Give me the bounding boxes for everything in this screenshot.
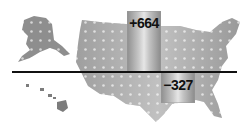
bar-positive-label: +664 xyxy=(127,15,161,31)
bar-negative: −327 xyxy=(161,72,195,103)
hawaii-shape xyxy=(26,84,68,112)
zero-baseline xyxy=(12,71,237,73)
alaska-shape xyxy=(18,16,70,62)
us-map-background xyxy=(0,0,252,128)
bar-positive: +664 xyxy=(127,11,161,72)
bar-negative-label: −327 xyxy=(161,77,195,93)
